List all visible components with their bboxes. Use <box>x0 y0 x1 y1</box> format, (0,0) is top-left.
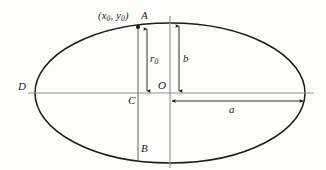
label-coordinate-pair: (x0, y0) <box>98 11 129 22</box>
label-point-d: D <box>18 81 26 92</box>
label-point-b: B <box>141 143 148 154</box>
label-point-a: A <box>141 10 148 21</box>
label-semi-major-a: a <box>229 104 235 115</box>
label-radius-r0: r0 <box>150 53 158 64</box>
label-point-c: C <box>128 95 136 106</box>
label-point-o: O <box>158 80 166 91</box>
ellipse-diagram: (x0, y0) A B C D O r0 b a <box>0 0 326 170</box>
label-semi-minor-b: b <box>183 53 189 64</box>
point-a-marker <box>136 25 140 29</box>
